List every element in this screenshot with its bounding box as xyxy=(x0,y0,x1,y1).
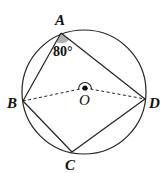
segment-od xyxy=(85,88,145,99)
geometry-diagram: A B C D O 80° xyxy=(0,0,166,173)
label-b: B xyxy=(6,95,17,111)
label-a: A xyxy=(54,12,65,28)
segment-ob xyxy=(23,88,85,101)
segment-ad xyxy=(61,33,145,99)
label-o: O xyxy=(79,92,90,108)
label-d: D xyxy=(148,95,160,111)
angle-a-label: 80° xyxy=(53,44,73,59)
label-c: C xyxy=(65,157,76,173)
segment-bc xyxy=(23,101,72,152)
center-point xyxy=(82,85,87,90)
